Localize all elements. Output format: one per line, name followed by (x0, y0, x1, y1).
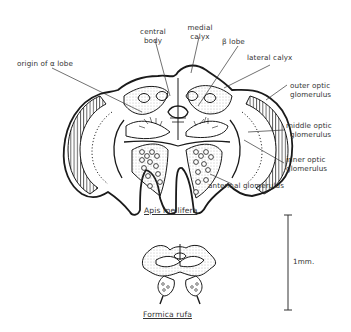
scale-bar-label: 1mm. (293, 258, 314, 267)
label-origin-alpha-lobe: origin of α lobe (17, 60, 73, 69)
label-inner-optic-glomerulus: inner optic glomerulus (286, 156, 327, 173)
label-medial-calyx-line2: calyx (185, 33, 215, 42)
label-outer-optic-glomerulus: outer optic glomerulus (290, 82, 331, 99)
caption-apis-mellifera: Apis mellifera (144, 207, 197, 216)
label-outer-optic-line2: glomerulus (290, 91, 331, 100)
apis-brain (64, 66, 293, 215)
caption-formica-rufa: Formica rufa (143, 311, 192, 320)
formica-brain (142, 244, 215, 304)
label-beta-lobe: β lobe (222, 38, 245, 47)
scale-bar (284, 215, 292, 310)
label-inner-optic-line2: glomerulus (286, 165, 327, 174)
label-central-body: central body (136, 28, 170, 45)
label-middle-optic-glomerulus: middle optic glomerulus (286, 122, 332, 139)
label-antennal-glomerulus: antennal glomerulus (208, 182, 284, 191)
label-medial-calyx: medial calyx (185, 24, 215, 41)
label-central-body-line2: body (136, 37, 170, 46)
label-lateral-calyx: lateral calyx (247, 54, 292, 63)
brain-section-figure: origin of α lobe central body medial cal… (0, 0, 351, 332)
label-middle-optic-line2: glomerulus (286, 131, 332, 140)
